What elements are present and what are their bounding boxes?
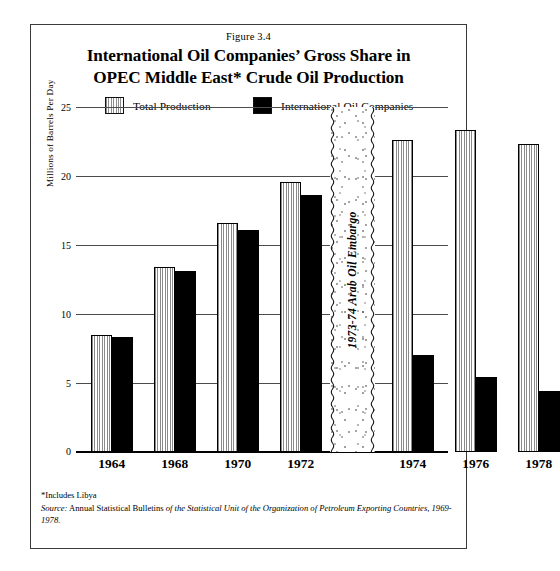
gridline-25: 25	[76, 107, 448, 108]
embargo-edge-left	[330, 107, 335, 452]
x-axis-label-1970: 1970	[224, 456, 251, 472]
x-axis-label-1968: 1968	[161, 456, 188, 472]
embargo-label: 1973-74 Arab Oil Embargo	[346, 211, 359, 348]
y-axis-tick-10: 10	[61, 309, 71, 320]
figure-frame: Figure 3.4 International Oil Companies’ …	[30, 24, 467, 549]
figure-number: Figure 3.4	[31, 31, 466, 42]
x-axis-label-1964: 1964	[98, 456, 125, 472]
footnote-source: Source: Annual Statistical Bulletins of …	[41, 502, 456, 526]
chart-plot-area: Millions of Barrels Per Day 0510152025 1…	[76, 107, 448, 452]
footnotes: *Includes Libya Source: Annual Statistic…	[41, 489, 456, 527]
y-axis-tick-5: 5	[66, 378, 71, 389]
bar-1974-international-oil-companies	[413, 355, 434, 452]
source-label: Source:	[41, 503, 67, 513]
y-axis-tick-0: 0	[66, 446, 71, 457]
footnote-includes-libya: *Includes Libya	[41, 489, 456, 501]
bar-1970-total-production	[217, 223, 238, 452]
bar-1976-international-oil-companies	[476, 377, 497, 452]
bar-1972-total-production	[280, 182, 301, 452]
embargo-band: 1973-74 Arab Oil Embargo	[330, 107, 375, 452]
bar-1976-total-production	[455, 130, 476, 452]
y-axis-tick-20: 20	[61, 171, 71, 182]
bar-1974-total-production	[392, 140, 413, 452]
x-axis-label-1972: 1972	[287, 456, 314, 472]
y-axis-tick-25: 25	[61, 102, 71, 113]
bar-1978-international-oil-companies	[539, 391, 560, 452]
bar-1968-total-production	[154, 267, 175, 452]
bar-1972-international-oil-companies	[301, 195, 322, 452]
x-axis-label-1976: 1976	[462, 456, 489, 472]
source-text-italic-1: of the Statistical Unit of the Organizat…	[166, 503, 391, 513]
bar-1978-total-production	[518, 144, 539, 452]
y-axis-tick-15: 15	[61, 240, 71, 251]
x-axis-label-1974: 1974	[399, 456, 426, 472]
bar-1964-total-production	[91, 335, 112, 452]
bar-1964-international-oil-companies	[112, 337, 133, 452]
bar-1970-international-oil-companies	[238, 230, 259, 452]
x-axis-label-1978: 1978	[525, 456, 552, 472]
bar-1968-international-oil-companies	[175, 271, 196, 452]
page-title: International Oil Companies’ Gross Share…	[45, 45, 452, 89]
embargo-edge-right	[370, 107, 375, 452]
source-text-roman: Annual Statistical Bulletins	[69, 503, 164, 513]
title-line-2: OPEC Middle East* Crude Oil Production	[45, 67, 452, 89]
y-axis-title: Millions of Barrels Per Day	[45, 0, 55, 187]
title-line-1: International Oil Companies’ Gross Share…	[45, 45, 452, 67]
